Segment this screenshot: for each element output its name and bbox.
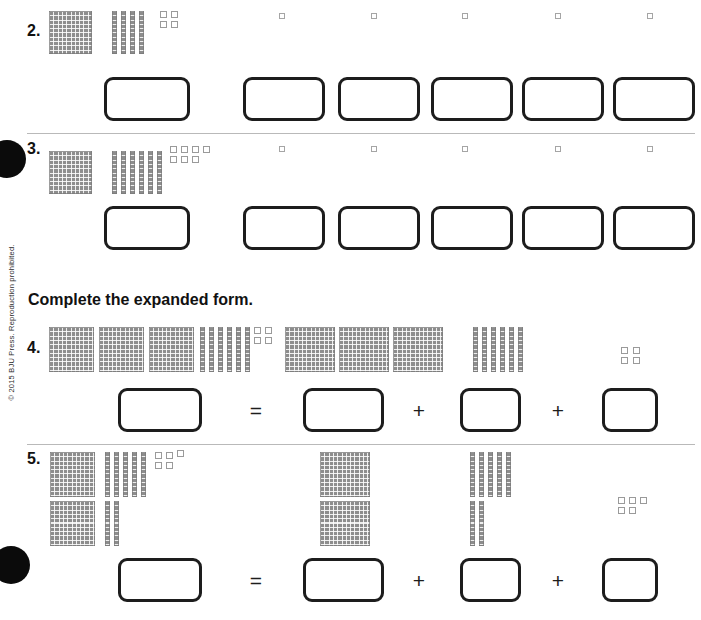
tens-rod: [105, 501, 110, 546]
ones-unit: [633, 357, 640, 364]
hundreds-flat: [49, 151, 92, 194]
answer-box-hundreds[interactable]: [303, 558, 384, 602]
place-marker-unit: [279, 13, 285, 19]
ones-unit: [621, 357, 628, 364]
tens-rod: [112, 11, 117, 54]
tens-rod: [123, 452, 128, 497]
tens-rod: [509, 327, 514, 372]
hundreds-flat: [285, 327, 335, 372]
answer-box-tens[interactable]: [460, 558, 521, 602]
answer-box-digit[interactable]: [522, 77, 604, 121]
tens-rod: [139, 11, 144, 54]
answer-box-total[interactable]: [118, 388, 202, 432]
plus-operator: +: [548, 400, 568, 421]
tens-rod: [488, 452, 493, 497]
problem-5-number: 5.: [27, 450, 40, 468]
ones-unit: [171, 11, 178, 18]
place-marker-unit: [647, 13, 653, 19]
tens-rod: [218, 327, 223, 372]
tens-rod: [497, 452, 502, 497]
ones-unit: [177, 450, 184, 457]
equals-operator: =: [246, 400, 266, 421]
ones-unit: [160, 21, 167, 28]
ones-unit: [265, 337, 272, 344]
place-marker-unit: [555, 146, 561, 152]
tens-rod: [518, 327, 523, 372]
ones-unit: [166, 452, 173, 459]
tens-rod: [491, 327, 496, 372]
ones-unit: [192, 146, 199, 153]
answer-box-digit[interactable]: [613, 206, 695, 250]
tens-rod: [112, 151, 117, 194]
bullet-marker-problem-5: [0, 546, 30, 584]
ones-unit: [181, 156, 188, 163]
tens-rod: [114, 501, 119, 546]
plus-operator: +: [548, 570, 568, 591]
answer-box-digit[interactable]: [243, 206, 325, 250]
tens-rod: [245, 327, 250, 372]
tens-rod: [132, 452, 137, 497]
ones-unit: [254, 327, 261, 334]
answer-box-digit[interactable]: [243, 77, 325, 121]
answer-box-ones[interactable]: [602, 388, 658, 432]
answer-box-total[interactable]: [118, 558, 202, 602]
plus-operator: +: [409, 400, 429, 421]
instruction-expanded-form: Complete the expanded form.: [28, 291, 253, 309]
problem-3-number: 3.: [27, 140, 40, 158]
answer-box-total[interactable]: [104, 77, 190, 121]
tens-rod: [121, 151, 126, 194]
hundreds-flat: [339, 327, 389, 372]
ones-unit: [629, 507, 636, 514]
tens-rod: [470, 452, 475, 497]
hundreds-flat: [99, 327, 144, 372]
answer-box-digit[interactable]: [431, 206, 513, 250]
worksheet-page: © 2015 BJU Press. Reproduction prohibite…: [0, 0, 701, 620]
problem-4-number: 4.: [27, 339, 40, 357]
answer-box-hundreds[interactable]: [303, 388, 384, 432]
tens-rod: [479, 452, 484, 497]
place-marker-unit: [279, 146, 285, 152]
problem-2-number: 2.: [27, 22, 40, 40]
answer-box-total[interactable]: [104, 206, 190, 250]
tens-rod: [121, 11, 126, 54]
hundreds-flat: [320, 501, 370, 546]
tens-rod: [506, 452, 511, 497]
answer-box-digit[interactable]: [431, 77, 513, 121]
ones-unit: [640, 497, 647, 504]
tens-rod: [114, 452, 119, 497]
equals-operator: =: [246, 570, 266, 591]
ones-unit: [621, 347, 628, 354]
section-divider: [27, 133, 695, 134]
ones-unit: [254, 337, 261, 344]
hundreds-flat: [50, 501, 95, 546]
place-marker-unit: [555, 13, 561, 19]
answer-box-digit[interactable]: [338, 206, 420, 250]
hundreds-flat: [149, 327, 194, 372]
ones-unit: [629, 497, 636, 504]
ones-unit: [203, 146, 210, 153]
ones-unit: [633, 347, 640, 354]
tens-rod: [130, 11, 135, 54]
ones-unit: [155, 462, 162, 469]
ones-unit: [618, 507, 625, 514]
answer-box-digit[interactable]: [338, 77, 420, 121]
section-divider: [27, 444, 695, 445]
answer-box-digit[interactable]: [522, 206, 604, 250]
hundreds-flat: [49, 11, 92, 54]
tens-rod: [130, 151, 135, 194]
place-marker-unit: [462, 146, 468, 152]
ones-unit: [171, 21, 178, 28]
place-marker-unit: [371, 146, 377, 152]
tens-rod: [236, 327, 241, 372]
tens-rod: [470, 501, 475, 546]
ones-unit: [166, 462, 173, 469]
tens-rod: [200, 327, 205, 372]
hundreds-flat: [49, 327, 94, 372]
answer-box-tens[interactable]: [460, 388, 521, 432]
answer-box-ones[interactable]: [602, 558, 658, 602]
place-marker-unit: [371, 13, 377, 19]
tens-rod: [148, 151, 153, 194]
hundreds-flat: [50, 452, 95, 497]
tens-rod: [105, 452, 110, 497]
answer-box-digit[interactable]: [613, 77, 695, 121]
